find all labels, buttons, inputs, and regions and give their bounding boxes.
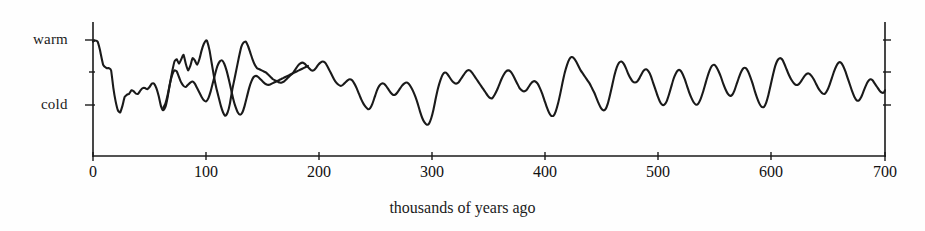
temperature-line-chart	[0, 0, 925, 231]
y-axis-label-warm: warm	[33, 31, 68, 48]
y-axis-label-cold: cold	[41, 96, 68, 113]
x-tick-label-600: 600	[759, 163, 783, 181]
chart-figure: warm cold 0 100 200 300 400 500 600 700 …	[0, 0, 925, 231]
x-tick-label-300: 300	[420, 163, 444, 181]
x-tick-label-400: 400	[533, 163, 557, 181]
x-tick-label-200: 200	[307, 163, 331, 181]
x-tick-label-0: 0	[89, 163, 97, 181]
x-tick-label-500: 500	[646, 163, 670, 181]
data-series-group	[93, 40, 885, 124]
x-tick-label-100: 100	[194, 163, 218, 181]
x-axis-title: thousands of years ago	[0, 199, 925, 217]
x-tick-label-700: 700	[873, 163, 897, 181]
series-line-main	[93, 40, 885, 124]
